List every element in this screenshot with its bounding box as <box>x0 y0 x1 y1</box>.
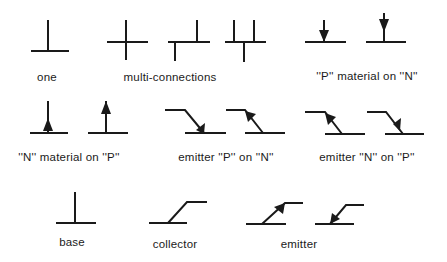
emitter-p-on-n-near-junction-icon <box>165 110 226 134</box>
label-emitter-p-on-n: emitter ''P'' on ''N'' <box>178 151 273 163</box>
label-multi-connections: multi-connections <box>124 71 217 83</box>
label-base: base <box>59 236 85 248</box>
p-on-n-arrow-at-top-icon <box>366 13 406 42</box>
label-emitter: emitter <box>281 238 318 250</box>
label-one: one <box>37 71 57 83</box>
n-on-p-arrow-at-junction-icon <box>30 101 68 133</box>
label-p-on-n: ''P'' material on ''N'' <box>316 70 417 82</box>
n-on-p-arrow-at-top-icon <box>88 101 128 133</box>
emitter-n-on-p-near-bend-icon <box>367 112 424 134</box>
symbol-diagram <box>0 0 447 262</box>
emitter-p-on-n-near-bend-icon <box>226 110 285 133</box>
label-n-on-p: ''N'' material on ''P'' <box>18 151 119 163</box>
double-t-connection-symbol <box>225 20 266 62</box>
emitter-arrow-in-icon <box>315 205 364 224</box>
collector-lead-symbol <box>149 202 207 223</box>
one-connection-symbol <box>31 20 69 51</box>
offset-t-connection-symbol <box>168 20 210 61</box>
label-collector: collector <box>153 238 198 250</box>
cross-connection-symbol <box>107 20 148 60</box>
base-lead-symbol <box>56 192 96 223</box>
p-on-n-arrow-at-junction-icon <box>305 20 346 42</box>
emitter-arrow-out-icon <box>246 203 303 224</box>
emitter-n-on-p-near-junction-icon <box>305 112 365 134</box>
label-emitter-n-on-p: emitter ''N'' on ''P'' <box>319 151 414 163</box>
